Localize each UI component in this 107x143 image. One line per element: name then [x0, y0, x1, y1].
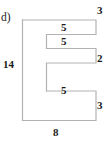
bottom-arm-edges: [23, 91, 97, 121]
dimension-left-height: 14: [3, 58, 14, 70]
dimension-bottom-width: 8: [53, 126, 59, 138]
dimension-upper-notch-depth: 5: [61, 21, 67, 33]
part-label: d): [1, 11, 11, 23]
e-shape-outline: [0, 0, 107, 143]
dimension-diagram: d) 14 3 5 5 2 5 3 8: [0, 0, 107, 143]
middle-arm-edges: [47, 49, 97, 92]
dimension-top-right-height: 3: [97, 4, 103, 16]
dimension-upper-notch-return: 5: [61, 35, 67, 47]
dimension-middle-right-height: 2: [97, 52, 103, 64]
dimension-lower-notch-depth: 5: [61, 84, 67, 96]
dimension-bottom-right-height: 3: [97, 99, 103, 111]
top-arm-edges: [23, 20, 97, 49]
